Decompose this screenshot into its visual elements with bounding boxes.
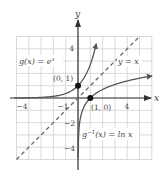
tick-x-neg4: −4 — [16, 102, 27, 111]
tick-y-neg2: −2 — [64, 119, 75, 128]
identity-function-label: y = x — [117, 56, 142, 67]
exp-curve — [14, 44, 96, 98]
function-graph: x y −4 −1 4 4 −2 −4 (0, 1) (1, 0) g(x) =… — [0, 0, 167, 173]
tick-y-neg4: −4 — [64, 144, 75, 153]
svg-text:y = x: y = x — [117, 57, 139, 66]
tick-x-neg1: −1 — [57, 102, 68, 111]
ln-function-label: g−1(x) = ln x — [81, 128, 139, 140]
y-axis-label: y — [74, 9, 81, 19]
exp-function-label: g(x) = ex — [17, 55, 63, 66]
point-1-0 — [87, 95, 93, 101]
svg-text:g(x) = ex: g(x) = ex — [19, 56, 55, 67]
x-axis-label: x — [154, 93, 159, 103]
tick-x-4: 4 — [125, 102, 130, 111]
point-label-0-1: (0, 1) — [53, 74, 73, 83]
tick-y-4: 4 — [69, 44, 74, 53]
point-0-1 — [75, 83, 81, 89]
point-label-1-0: (1, 0) — [91, 103, 111, 112]
